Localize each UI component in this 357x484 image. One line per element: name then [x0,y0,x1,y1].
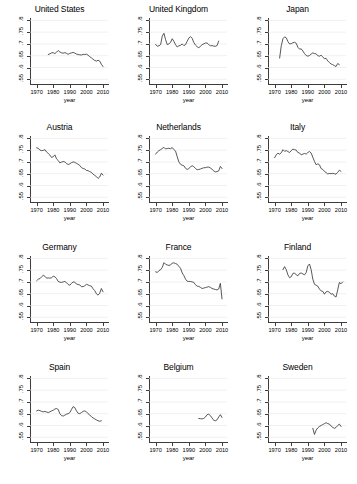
x-axis-title: year [268,215,347,221]
chart-panel: Netherlands.55.6.65.7.75.819701980199020… [119,118,238,238]
x-axis-tick [324,443,325,446]
x-axis-title: year [268,97,347,103]
y-axis-tick-label: .8 [256,12,262,26]
chart-panel: Germany.55.6.65.7.75.8197019801990200020… [0,238,119,358]
x-axis-tick [70,203,71,206]
series-line [48,51,103,67]
series-line [280,37,340,67]
y-axis-tick-label: .8 [256,130,262,144]
x-axis-tick [341,85,342,88]
x-axis-tick [324,203,325,206]
y-axis-tick-label: .75 [18,24,24,38]
x-axis-tick-label: 2010 [92,447,114,453]
plot-area [268,256,346,322]
series-line [313,423,341,435]
x-axis-tick [37,323,38,326]
x-axis-tick [86,443,87,446]
x-axis-tick [275,203,276,206]
x-axis-tick [156,443,157,446]
plot-area [268,18,346,84]
y-axis-tick-label: .75 [137,262,143,276]
chart-panel: Finland.55.6.65.7.75.8197019801990200020… [238,238,357,358]
x-axis-tick-label: 2010 [330,207,352,213]
x-axis-title: year [149,215,228,221]
x-axis-tick [37,85,38,88]
x-axis-title: year [149,97,228,103]
x-axis-tick [308,443,309,446]
x-axis-tick [308,323,309,326]
x-axis-line [268,202,347,203]
x-axis-title: year [30,455,109,461]
x-axis-title: year [30,97,109,103]
x-axis-tick [53,85,54,88]
x-axis-tick [205,443,206,446]
x-axis-tick [103,203,104,206]
x-axis-tick [341,203,342,206]
x-axis-tick [222,443,223,446]
y-axis-tick-label: .75 [137,142,143,156]
x-axis-tick-label: 2010 [211,89,233,95]
y-axis-tick-label: .75 [256,142,262,156]
y-axis-tick-label: .7 [18,36,24,50]
y-axis-tick-label: .75 [256,262,262,276]
x-axis-title: year [30,335,109,341]
x-axis-line [149,202,228,203]
x-axis-tick [205,323,206,326]
y-axis-tick-label: .7 [256,394,262,408]
y-axis-tick-label: .8 [256,250,262,264]
x-axis-tick [103,85,104,88]
x-axis-tick [291,443,292,446]
x-axis-tick [172,203,173,206]
x-axis-tick [275,85,276,88]
x-axis-tick [172,85,173,88]
y-axis-tick-label: .75 [18,262,24,276]
y-axis-tick-label: .7 [137,36,143,50]
x-axis-line [30,84,109,85]
x-axis-tick-label: 2010 [330,89,352,95]
x-axis-tick [189,85,190,88]
x-axis-tick [308,203,309,206]
x-axis-line [268,322,347,323]
y-axis-tick-label: .8 [256,370,262,384]
x-axis-tick [189,323,190,326]
x-axis-tick [324,85,325,88]
chart-panel: United States.55.6.65.7.75.8197019801990… [0,0,119,118]
x-axis-tick [53,203,54,206]
x-axis-tick [172,443,173,446]
x-axis-tick-label: 2010 [211,207,233,213]
y-axis-tick-label: .7 [256,274,262,288]
x-axis-tick [37,443,38,446]
series-line [283,264,343,297]
x-axis-tick [53,443,54,446]
y-axis-tick-label: .75 [137,382,143,396]
x-axis-title: year [268,455,347,461]
x-axis-title: year [149,335,228,341]
x-axis-tick [222,203,223,206]
y-axis-tick-label: .75 [256,24,262,38]
x-axis-tick [37,203,38,206]
plot-area [149,18,227,84]
x-axis-tick [70,443,71,446]
y-axis-tick-label: .7 [137,394,143,408]
plot-area [149,376,227,442]
y-axis-tick-label: .7 [18,394,24,408]
y-axis-tick-label: .8 [137,12,143,26]
series-line [37,275,103,295]
chart-panel: Austria.55.6.65.7.75.8197019801990200020… [0,118,119,238]
x-axis-tick [156,85,157,88]
x-axis-tick [291,323,292,326]
x-axis-line [149,84,228,85]
y-axis-tick-label: .75 [256,382,262,396]
x-axis-tick [53,323,54,326]
x-axis-tick-label: 2010 [330,327,352,333]
x-axis-tick [156,203,157,206]
plot-area [268,376,346,442]
x-axis-tick [324,323,325,326]
y-axis-tick-label: .8 [137,130,143,144]
x-axis-tick-label: 2010 [92,327,114,333]
x-axis-title: year [149,455,228,461]
chart-panel: France.55.6.65.7.75.81970198019902000201… [119,238,238,358]
x-axis-tick [172,323,173,326]
y-axis-tick-label: .75 [18,142,24,156]
y-axis-tick-label: .75 [18,382,24,396]
